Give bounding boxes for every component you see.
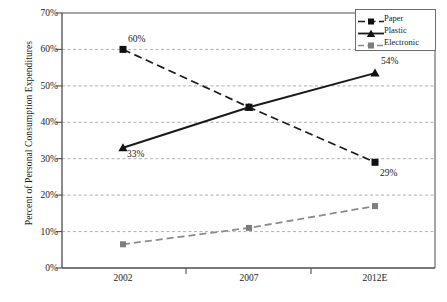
x-tick-2007: 2007	[240, 273, 259, 283]
series-paper-marker-2012E	[372, 159, 379, 166]
legend-label-paper: Paper	[384, 13, 403, 24]
legend-marker-electronic-icon	[358, 37, 384, 48]
gridlines	[62, 49, 435, 231]
series-electronic-marker-2007	[246, 225, 252, 231]
legend-item-electronic[interactable]: Electronic	[358, 36, 432, 48]
data-label-paper-2002: 60%	[128, 34, 145, 44]
data-label-plastic-2012E: 54%	[381, 56, 398, 66]
legend-item-paper[interactable]: Paper	[358, 12, 432, 24]
series-electronic-marker-2012E	[372, 203, 378, 209]
series-plastic	[118, 69, 379, 152]
x-axis-tick-labels: 2002 2007 2012E	[62, 273, 435, 293]
legend-marker-plastic-icon	[358, 25, 384, 36]
legend-label-electronic: Electronic	[384, 37, 419, 48]
legend-label-plastic: Plastic	[384, 25, 407, 36]
legend: Paper Plastic Electronic	[355, 9, 436, 51]
series-paper-marker-2002	[120, 46, 127, 53]
series-electronic-marker-2002	[120, 241, 126, 247]
legend-marker-paper-icon	[358, 13, 384, 24]
line-chart: Percent of Personal Consumption Expendit…	[0, 0, 447, 302]
x-tick-2012E: 2012E	[363, 273, 388, 283]
x-tick-2002: 2002	[114, 273, 133, 283]
legend-item-plastic[interactable]: Plastic	[358, 24, 432, 36]
y-axis-ticks	[56, 13, 62, 268]
series-electronic	[120, 203, 378, 247]
data-label-paper-2012E: 29%	[380, 168, 397, 178]
series-plastic-marker-2012E	[370, 69, 379, 77]
data-label-plastic-2002: 33%	[127, 149, 144, 159]
